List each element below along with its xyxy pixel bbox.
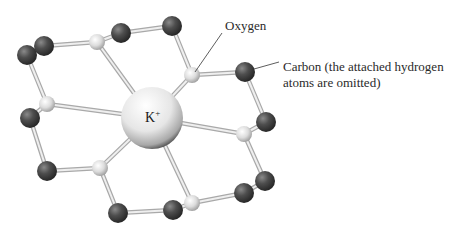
carbon-atom: [111, 23, 131, 43]
carbon-label-line1: Carbon (the attached hydrogen: [283, 59, 444, 74]
oxygen-atom: [184, 195, 200, 211]
carbon-atom: [255, 171, 275, 191]
oxygen-atom: [92, 160, 108, 176]
carbon-atom: [20, 108, 40, 128]
oxygen-atom: [236, 126, 252, 142]
carbon-atom: [37, 161, 57, 181]
oxygen-atom: [39, 96, 55, 112]
oxygen-annotation: Oxygen: [195, 18, 267, 72]
oxygen-atom: [89, 34, 105, 50]
carbon-atom: [235, 62, 255, 82]
carbon-atom: [17, 45, 37, 65]
oxygen-atom: [184, 67, 200, 83]
carbon-atom: [163, 200, 183, 220]
carbon-atom: [256, 112, 276, 132]
crown-ether-diagram: Oxygen Carbon (the attached hydrogen ato…: [0, 0, 453, 238]
carbon-atom: [234, 183, 254, 203]
cation-charge: +: [155, 108, 160, 118]
cation-symbol: K: [145, 110, 155, 125]
carbon-annotation: Carbon (the attached hydrogen atoms are …: [254, 59, 444, 90]
oxygen-label: Oxygen: [225, 18, 267, 33]
carbon-leader-line: [254, 62, 279, 69]
carbon-atom: [162, 16, 182, 36]
carbon-atom: [108, 203, 128, 223]
carbon-label-line2: atoms are omitted): [283, 75, 380, 90]
carbon-atom: [34, 36, 54, 56]
oxygen-leader-line: [195, 33, 222, 72]
